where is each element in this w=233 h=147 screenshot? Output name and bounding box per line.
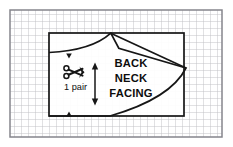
piece-label-line-2: NECK	[115, 72, 148, 84]
piece-label-line-1: BACK	[114, 57, 147, 69]
piece-label-line-3: FACING	[109, 87, 153, 99]
pattern-layout-svg: 1 pair BACK NECK FACING	[0, 0, 233, 147]
quantity-label: 1 pair	[64, 82, 87, 92]
pattern-diagram-canvas: 1 pair BACK NECK FACING	[0, 0, 233, 147]
